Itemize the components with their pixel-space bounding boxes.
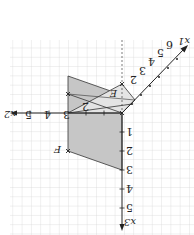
x2-tick-5: 5 bbox=[25, 108, 32, 121]
coordinate-diagram: 3 4 5 x2 1 2 3 4 5 x3 2 3 4 5 6 x1 bbox=[0, 0, 194, 235]
x2-tick-3: 3 bbox=[63, 108, 70, 121]
x1-tick-3: 3 bbox=[139, 64, 146, 77]
x2-axis-label: x2 bbox=[4, 109, 16, 120]
x3-tick-5: 5 bbox=[126, 201, 133, 214]
inner-label-2: 2 bbox=[82, 100, 89, 113]
x3-axis-label: x3 bbox=[124, 217, 136, 228]
x3-tick-1: 1 bbox=[126, 125, 133, 138]
x3-tick-2: 2 bbox=[126, 144, 133, 157]
x1-tick-6: 6 bbox=[166, 38, 173, 51]
x3-tick-3: 3 bbox=[126, 163, 133, 176]
x1-tick-4: 4 bbox=[148, 55, 155, 68]
x3-tick-4: 4 bbox=[126, 182, 133, 195]
x1-tick-2: 2 bbox=[130, 73, 137, 86]
x2-tick-4: 4 bbox=[44, 108, 51, 121]
point-F-label: F bbox=[53, 144, 62, 155]
point-E-label: E bbox=[109, 88, 118, 99]
x1-tick-5: 5 bbox=[157, 46, 164, 59]
x1-axis-label: x1 bbox=[178, 36, 190, 47]
